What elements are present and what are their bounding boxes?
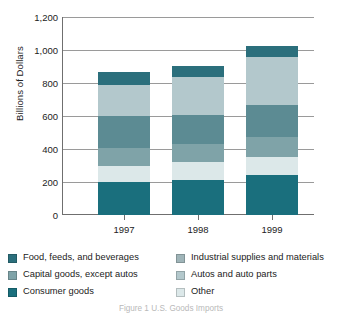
bar-segment	[172, 66, 224, 77]
gridline-1200	[62, 17, 314, 18]
legend-swatch-icon	[176, 254, 185, 263]
y-tick-label-1200: 1,200	[16, 13, 58, 23]
x-tick-mark-1999	[272, 215, 273, 220]
bar-segment	[98, 72, 150, 84]
bar-segment	[246, 137, 298, 157]
grid-and-bars: 1997 1998 1999	[62, 0, 320, 243]
y-axis-line	[62, 17, 63, 215]
bar-segment	[246, 105, 298, 137]
legend-item-label: Consumer goods	[23, 287, 94, 296]
bar-segment	[172, 77, 224, 115]
bar-segment	[172, 180, 224, 215]
legend-column-right: Industrial supplies and materialsAutos a…	[176, 250, 342, 301]
bar-segment	[98, 182, 150, 215]
y-tick-label-800: 800	[16, 79, 58, 89]
chart-legend: Food, feeds, and beveragesCapital goods,…	[0, 250, 342, 302]
legend-item-label: Autos and auto parts	[191, 270, 277, 279]
bar-segment	[246, 175, 298, 215]
chart-figure: Billions of Dollars 1,200 1,000 800 600 …	[0, 0, 342, 317]
legend-item[interactable]: Autos and auto parts	[176, 267, 342, 283]
bar-1997[interactable]	[98, 72, 150, 215]
legend-swatch-icon	[8, 288, 17, 297]
bar-1998[interactable]	[172, 66, 224, 215]
legend-item-label: Capital goods, except autos	[23, 270, 138, 279]
bar-segment	[98, 85, 150, 116]
bar-segment	[246, 157, 298, 175]
bar-segment	[172, 144, 224, 163]
y-tick-label-0: 0	[16, 211, 58, 221]
x-tick-mark-1997	[124, 215, 125, 220]
legend-item[interactable]: Capital goods, except autos	[8, 267, 178, 283]
legend-swatch-icon	[8, 271, 17, 280]
x-tick-label-1997: 1997	[89, 224, 159, 235]
legend-item[interactable]: Consumer goods	[8, 284, 178, 300]
legend-column-left: Food, feeds, and beveragesCapital goods,…	[8, 250, 178, 301]
y-tick-label-600: 600	[16, 112, 58, 122]
legend-swatch-icon	[176, 288, 185, 297]
legend-item-label: Other	[191, 287, 214, 296]
bar-segment	[172, 115, 224, 144]
bar-segment	[172, 162, 224, 179]
x-tick-label-1998: 1998	[163, 224, 233, 235]
legend-item-label: Industrial supplies and materials	[191, 253, 324, 262]
bar-segment	[246, 57, 298, 105]
x-tick-mark-1998	[198, 215, 199, 220]
y-axis-tick-labels: 1,200 1,000 800 600 400 200 0	[8, 0, 58, 243]
y-tick-label-400: 400	[16, 145, 58, 155]
legend-item[interactable]: Industrial supplies and materials	[176, 250, 342, 266]
bar-segment	[98, 116, 150, 148]
y-tick-label-1000: 1,000	[16, 46, 58, 56]
legend-swatch-icon	[176, 271, 185, 280]
bar-1999[interactable]	[246, 46, 298, 215]
plot-area: Billions of Dollars 1,200 1,000 800 600 …	[0, 0, 342, 243]
legend-item-label: Food, feeds, and beverages	[23, 253, 139, 262]
bar-segment	[246, 46, 298, 57]
y-tick-label-200: 200	[16, 178, 58, 188]
bar-segment	[98, 148, 150, 166]
bar-segment	[98, 166, 150, 182]
legend-item[interactable]: Food, feeds, and beverages	[8, 250, 178, 266]
x-tick-label-1999: 1999	[237, 224, 307, 235]
legend-swatch-icon	[8, 254, 17, 263]
figure-caption: Figure 1 U.S. Goods Imports	[0, 304, 342, 313]
legend-item[interactable]: Other	[176, 284, 342, 300]
